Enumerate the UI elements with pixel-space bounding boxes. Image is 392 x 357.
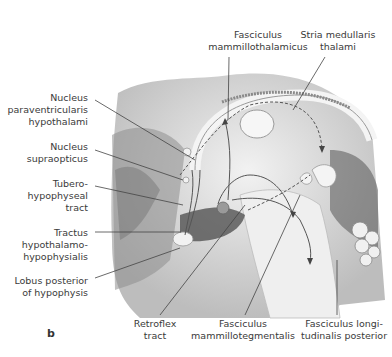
mammillary-body bbox=[217, 202, 229, 214]
label-fasciculus-mammillotegmentalis: Fasciculus mammillotegmentalis bbox=[188, 318, 298, 342]
hypophysis bbox=[173, 232, 193, 246]
label-stria-medullaris-thalami: Stria medullaris thalami bbox=[288, 29, 388, 53]
label-lobus-posterior: Lobus posterior of hypophysis bbox=[0, 275, 88, 299]
label-tuberohypophyseal-tract: Tubero- hypophyseal tract bbox=[0, 178, 88, 214]
label-nucleus-paraventricularis: Nucleus paraventricularis hypothalami bbox=[0, 92, 88, 128]
label-tractus-hypothalamohypophysialis: Tractus hypothalamo- hypophysialis bbox=[0, 227, 88, 263]
label-retroflex-tract: Retroflex tract bbox=[120, 318, 190, 342]
label-nucleus-supraopticus: Nucleus supraopticus bbox=[0, 141, 88, 165]
label-fasciculus-longitudinalis-posterior: Fasciculus longi- tudinalis posterior bbox=[296, 318, 392, 342]
panel-label: b bbox=[47, 327, 55, 340]
